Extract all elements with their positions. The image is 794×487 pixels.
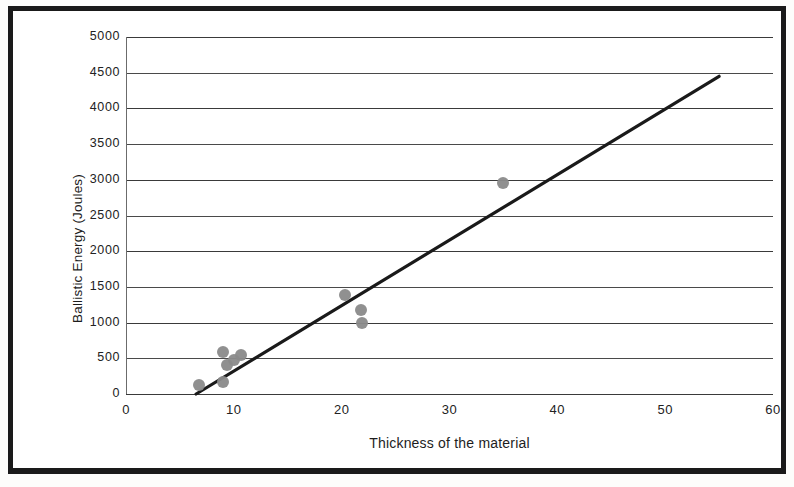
y-axis-tick-label: 4500: [90, 65, 120, 79]
gridline: [126, 108, 773, 109]
y-axis-title-wrapper: Ballistic Energy (Joules): [41, 91, 65, 351]
data-point: [235, 349, 247, 361]
scanned-figure: Ballistic Energy (Joules) 05001000150020…: [0, 0, 794, 487]
gridline: [126, 37, 773, 38]
y-axis-tick-label: 500: [97, 350, 120, 364]
x-axis-tick-label: 20: [334, 402, 349, 417]
x-axis-tick-label: 10: [226, 402, 241, 417]
gridline: [126, 251, 773, 252]
y-axis-tick-label: 4000: [90, 100, 120, 114]
x-axis-title: Thickness of the material: [126, 435, 773, 451]
figure-border-bottom: [8, 468, 786, 474]
chart-canvas: Ballistic Energy (Joules) 05001000150020…: [13, 11, 781, 468]
y-axis-tick-label: 2000: [90, 243, 120, 257]
gridline: [126, 323, 773, 324]
data-point: [193, 379, 205, 391]
gridline: [126, 216, 773, 217]
x-axis-tick-label: 0: [122, 402, 130, 417]
data-point: [217, 346, 229, 358]
gridline: [126, 180, 773, 181]
y-axis-tick-labels: 0500100015002000250030003500400045005000: [68, 37, 120, 394]
data-point: [339, 289, 351, 301]
y-axis-line: [126, 37, 127, 394]
data-point: [497, 177, 509, 189]
gridline: [126, 358, 773, 359]
y-axis-tick-label: 0: [112, 386, 120, 400]
data-point: [355, 304, 367, 316]
y-axis-tick-label: 1000: [90, 315, 120, 329]
data-point: [356, 317, 368, 329]
x-axis-line: [126, 394, 773, 395]
x-axis-tick-labels: 0102030405060: [126, 402, 773, 424]
gridline: [126, 73, 773, 74]
y-axis-tick-label: 2500: [90, 208, 120, 222]
data-point: [217, 376, 229, 388]
x-axis-tick-label: 30: [442, 402, 457, 417]
figure-border-right: [781, 6, 786, 474]
plot-area: [126, 37, 773, 394]
x-axis-tick-label: 60: [765, 402, 780, 417]
gridline: [126, 144, 773, 145]
gridline: [126, 287, 773, 288]
x-axis-tick-label: 50: [657, 402, 672, 417]
y-axis-tick-label: 5000: [90, 29, 120, 43]
y-axis-tick-label: 1500: [90, 279, 120, 293]
x-axis-tick-label: 40: [550, 402, 565, 417]
y-axis-tick-label: 3500: [90, 136, 120, 150]
y-axis-tick-label: 3000: [90, 172, 120, 186]
